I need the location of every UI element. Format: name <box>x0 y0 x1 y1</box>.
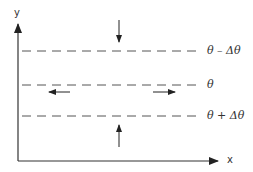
diagram-svg <box>0 0 253 172</box>
y-axis-label: y <box>14 8 20 18</box>
level-label-lower: θ + Δθ <box>207 110 244 121</box>
diagram-canvas: y x θ – Δθ θ θ + Δθ <box>0 0 253 172</box>
level-label-upper: θ – Δθ <box>207 45 241 56</box>
x-axis-label: x <box>227 155 233 165</box>
level-label-middle: θ <box>207 79 214 90</box>
